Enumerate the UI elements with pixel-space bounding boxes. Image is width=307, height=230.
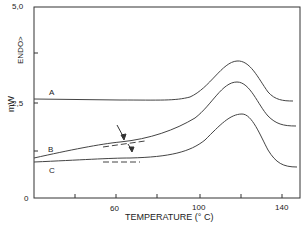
x-tick-60: 60 — [110, 204, 119, 213]
curve-c — [34, 114, 297, 167]
plot-frame — [34, 7, 300, 198]
curve-label-b: B — [48, 145, 53, 154]
y-tick-0: 0 — [24, 194, 28, 203]
y-tick-5: 5,0 — [12, 2, 23, 11]
curve-label-c: C — [49, 166, 55, 175]
y-axis-label: mW — [6, 96, 16, 112]
endo-annotation: ENDO> — [16, 36, 25, 64]
arrow-icon — [121, 134, 126, 140]
arrow-icon — [129, 147, 134, 152]
x-axis-title: TEMPERATURE (° C) — [125, 212, 213, 222]
dsc-plot — [0, 0, 307, 230]
x-tick-100: 100 — [192, 203, 205, 212]
curve-b — [34, 82, 296, 158]
x-tick-140: 140 — [275, 203, 288, 212]
curve-label-a: A — [49, 88, 54, 97]
